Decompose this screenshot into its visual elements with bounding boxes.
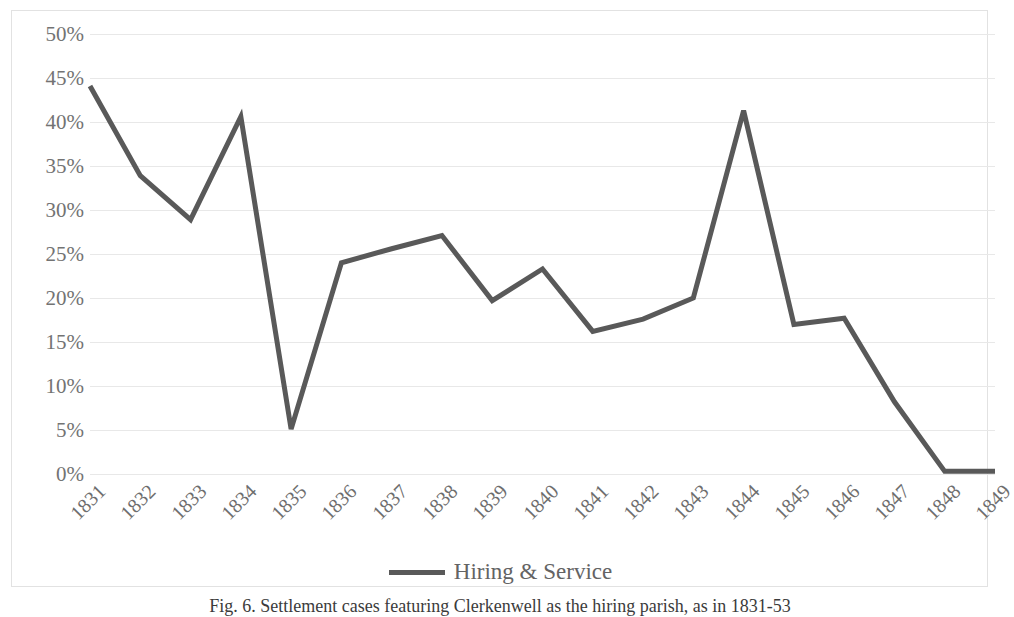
x-axis-tick-label: 1838 [402, 480, 462, 540]
y-axis-tick-label: 25% [46, 244, 85, 265]
chart-legend: Hiring & Service [12, 559, 989, 585]
x-axis-tick-label: 1833 [151, 480, 211, 540]
y-axis-tick-label: 15% [46, 332, 85, 353]
series-line-chart [90, 34, 995, 474]
y-axis-tick-label: 5% [56, 420, 84, 441]
x-axis-tick-label: 1848 [905, 480, 965, 540]
legend-swatch-hiring-and-service [389, 570, 445, 575]
y-axis-tick-label: 10% [46, 376, 85, 397]
x-axis-tick-label: 1831 [50, 480, 110, 540]
legend-label-hiring-and-service: Hiring & Service [454, 559, 612, 585]
series-hiring-and-service [90, 86, 995, 471]
x-axis-tick-label: 1842 [603, 480, 663, 540]
y-axis-tick-label: 30% [46, 200, 85, 221]
x-axis-tick-label: 1847 [855, 480, 915, 540]
x-axis-tick-label: 1846 [804, 480, 864, 540]
x-axis-tick-label: 1836 [302, 480, 362, 540]
x-axis-tick-label: 1845 [754, 480, 814, 540]
y-axis-tick-label: 0% [56, 464, 84, 485]
x-axis-tick-label: 1841 [553, 480, 613, 540]
y-axis-tick-label: 50% [46, 24, 85, 45]
y-axis-tick-label: 45% [46, 68, 85, 89]
x-axis: 1831183218331834183518361837183818391840… [90, 474, 995, 554]
x-axis-tick-label: 1849 [955, 480, 1014, 540]
x-axis-tick-label: 1837 [352, 480, 412, 540]
x-axis-tick-label: 1834 [201, 480, 261, 540]
y-axis-tick-label: 20% [46, 288, 85, 309]
figure-caption: Fig. 6. Settlement cases featuring Clerk… [0, 596, 1000, 617]
y-axis-tick-label: 40% [46, 112, 85, 133]
x-axis-tick-label: 1832 [100, 480, 160, 540]
plot-area [90, 34, 995, 474]
x-axis-tick-label: 1840 [503, 480, 563, 540]
y-axis: 0%5%10%15%20%25%30%35%40%45%50% [22, 34, 84, 474]
x-axis-tick-label: 1839 [452, 480, 512, 540]
x-axis-tick-label: 1844 [704, 480, 764, 540]
y-axis-tick-label: 35% [46, 156, 85, 177]
chart-frame: 0%5%10%15%20%25%30%35%40%45%50% 18311832… [11, 10, 988, 587]
x-axis-tick-label: 1843 [653, 480, 713, 540]
x-axis-tick-label: 1835 [251, 480, 311, 540]
